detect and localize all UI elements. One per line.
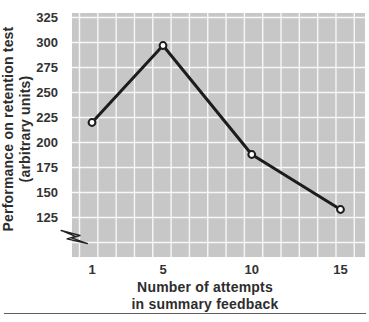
x-tick-label-10: 10 xyxy=(237,262,267,277)
x-axis-title-line1: Number of attempts xyxy=(40,279,369,296)
x-tick-label-5: 5 xyxy=(148,262,178,277)
x-axis-title: Number of attempts in summary feedback xyxy=(40,279,369,313)
x-tick-label-15: 15 xyxy=(326,262,356,277)
x-tick-label-1: 1 xyxy=(77,262,107,277)
bottom-divider xyxy=(4,313,366,314)
x-axis-title-line2: in summary feedback xyxy=(40,296,369,313)
x-tick-labels: 151015 xyxy=(0,0,369,280)
retention-performance-line-chart: Performance on retention test (arbitrary… xyxy=(0,0,369,322)
